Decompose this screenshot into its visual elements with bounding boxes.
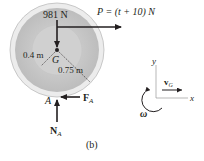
friction-label: FA xyxy=(83,92,94,105)
force-p-label: P = (t + 10) N xyxy=(96,6,156,18)
figure-label: (b) xyxy=(86,139,98,151)
free-body-diagram: 981 N P = (t + 10) N G 0.4 m 0.75 m A FA… xyxy=(0,0,204,161)
y-axis-label: y xyxy=(151,56,156,66)
x-axis-label: x xyxy=(189,93,194,103)
center-label: G xyxy=(52,54,59,65)
weight-label: 981 N xyxy=(43,9,68,20)
omega-label: ω xyxy=(140,108,147,119)
outer-radius-label: 0.75 m xyxy=(58,65,83,75)
normal-label: NA xyxy=(50,125,62,138)
contact-point-label: A xyxy=(44,95,52,106)
kinematics-sketch: y x vG ω xyxy=(140,56,194,119)
velocity-label: vG xyxy=(164,77,174,88)
center-of-mass-dot xyxy=(55,48,59,52)
inner-radius-label: 0.4 m xyxy=(23,50,44,60)
